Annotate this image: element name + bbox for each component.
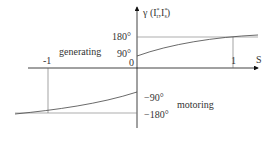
tick-minus-90: −90° <box>144 92 164 103</box>
tick-minus-180: −180° <box>144 109 169 120</box>
generating-curve <box>137 35 258 56</box>
tick-s-minus-one: -1 <box>43 55 51 66</box>
tick-s-plus-one: 1 <box>231 55 236 66</box>
region-generating: generating <box>59 46 101 57</box>
motoring-curve <box>15 92 137 114</box>
slip-angle-diagram: γ (I*r,I*s) S 180° 90° 0 −90° −180° -1 1… <box>0 0 278 150</box>
region-motoring: motoring <box>177 99 214 110</box>
x-axis-label: S <box>256 54 262 65</box>
y-axis-label: γ (I*r,I*s) <box>142 7 170 19</box>
tick-180: 180° <box>112 31 131 42</box>
tick-zero: 0 <box>129 57 134 68</box>
